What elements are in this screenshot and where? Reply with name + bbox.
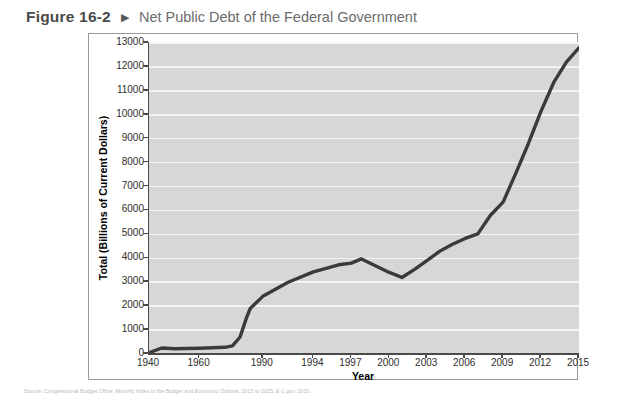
x-tick-mark [261, 353, 263, 358]
x-tick-label: 1994 [301, 357, 323, 368]
y-tick-label: 10000 [96, 108, 144, 119]
y-tick-mark [143, 328, 148, 330]
x-axis-line [148, 353, 579, 355]
figure-header: Figure 16-2 ▶ Net Public Debt of the Fed… [26, 8, 417, 26]
y-tick-mark [143, 41, 148, 43]
y-tick-label: 13000 [96, 36, 144, 47]
y-tick-label: 5000 [96, 227, 144, 238]
source-note: Source: Congressional Budget Office; Mon… [24, 388, 311, 394]
y-tick-mark [143, 233, 148, 235]
x-tick-label: 2003 [415, 357, 437, 368]
x-tick-label: 1940 [137, 357, 159, 368]
x-tick-label: 2006 [453, 357, 475, 368]
x-tick-label: 1990 [251, 357, 273, 368]
x-tick-mark [539, 353, 541, 358]
y-tick-label: 9000 [96, 132, 144, 143]
y-tick-mark [143, 65, 148, 67]
y-tick-label: 12000 [96, 60, 144, 71]
x-tick-label: 2015 [567, 357, 589, 368]
x-tick-mark [198, 353, 200, 358]
x-tick-mark [577, 353, 579, 358]
y-tick-label: 4000 [96, 251, 144, 262]
y-tick-label: 6000 [96, 203, 144, 214]
y-tick-mark [143, 185, 148, 187]
x-tick-mark [388, 353, 390, 358]
y-tick-mark [143, 280, 148, 282]
y-tick-mark [143, 113, 148, 115]
y-tick-mark [143, 161, 148, 163]
x-tick-label: 1997 [339, 357, 361, 368]
x-tick-mark [463, 353, 465, 358]
y-tick-mark [143, 352, 148, 354]
y-tick-mark [143, 257, 148, 259]
page-title: Net Public Debt of the Federal Governmen… [139, 9, 417, 25]
y-tick-label: 1000 [96, 323, 144, 334]
data-line-chart [149, 43, 579, 354]
x-tick-mark [312, 353, 314, 358]
y-tick-label: 7000 [96, 180, 144, 191]
x-tick-label: 2000 [377, 357, 399, 368]
plot-area [148, 42, 579, 354]
x-tick-label: 2012 [529, 357, 551, 368]
y-tick-label: 3000 [96, 275, 144, 286]
debt-series-line [149, 48, 579, 353]
x-tick-mark [501, 353, 503, 358]
y-tick-mark [143, 209, 148, 211]
y-tick-label: 11000 [96, 84, 144, 95]
y-tick-mark [143, 137, 148, 139]
y-axis-ticks: 0100020003000400050006000700080009000100… [96, 0, 144, 398]
y-tick-label: 8000 [96, 156, 144, 167]
y-tick-label: 2000 [96, 299, 144, 310]
x-tick-mark [425, 353, 427, 358]
x-tick-label: 1960 [187, 357, 209, 368]
x-tick-label: 2009 [491, 357, 513, 368]
y-tick-mark [143, 304, 148, 306]
x-tick-mark [350, 353, 352, 358]
y-tick-mark [143, 89, 148, 91]
x-axis-title: Year [148, 370, 578, 382]
